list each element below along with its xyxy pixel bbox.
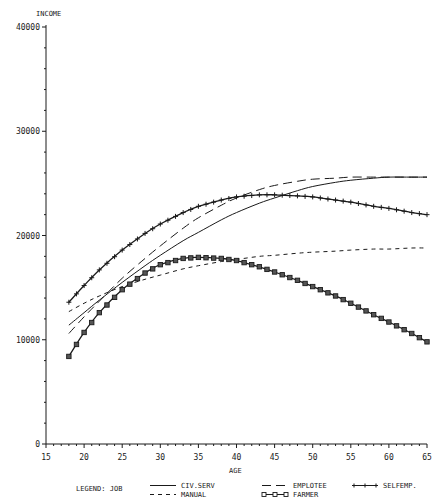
x-tick-label: 15 — [41, 453, 51, 462]
square-marker-icon — [318, 288, 322, 292]
square-marker-icon — [341, 297, 345, 301]
square-marker-icon — [349, 301, 353, 305]
square-marker-icon — [326, 291, 330, 295]
plus-marker-icon — [318, 195, 323, 200]
square-marker-icon — [234, 258, 238, 262]
legend-label: MANUAL — [181, 491, 206, 499]
legend-item: MANUAL — [150, 491, 206, 499]
plus-marker-icon — [257, 192, 262, 197]
y-tick-label: 40000 — [16, 23, 40, 32]
plus-marker-icon — [188, 207, 193, 212]
square-marker-icon — [82, 330, 86, 334]
x-tick-label: 50 — [308, 453, 318, 462]
series-line — [69, 257, 427, 356]
series-line — [69, 248, 427, 312]
plus-marker-icon — [364, 202, 369, 207]
square-marker-icon — [356, 305, 360, 309]
plus-marker-icon — [379, 205, 384, 210]
plus-marker-icon — [211, 200, 216, 205]
x-axis-title: AGE — [229, 467, 242, 475]
plus-marker-icon — [264, 192, 269, 197]
square-marker-icon — [284, 493, 288, 497]
series-emplotee — [69, 177, 427, 333]
plus-marker-icon — [409, 210, 414, 215]
legend-label: CIV.SERV — [181, 482, 216, 490]
square-marker-icon — [410, 331, 414, 335]
square-marker-icon — [158, 262, 162, 266]
plus-marker-icon — [158, 222, 163, 227]
square-marker-icon — [303, 281, 307, 285]
square-marker-icon — [364, 309, 368, 313]
square-marker-icon — [387, 320, 391, 324]
plus-marker-icon — [341, 199, 346, 204]
square-marker-icon — [273, 493, 277, 497]
square-marker-icon — [135, 276, 139, 280]
plus-marker-icon — [249, 193, 254, 198]
square-marker-icon — [97, 310, 101, 314]
square-marker-icon — [74, 342, 78, 346]
x-tick-label: 25 — [117, 453, 127, 462]
legend-item: SELFEMP. — [352, 482, 417, 490]
square-marker-icon — [219, 256, 223, 260]
plus-marker-icon — [303, 194, 308, 199]
plus-marker-icon — [374, 484, 378, 488]
square-marker-icon — [262, 493, 266, 497]
square-marker-icon — [143, 271, 147, 275]
plus-marker-icon — [272, 192, 277, 197]
square-marker-icon — [204, 256, 208, 260]
square-marker-icon — [371, 313, 375, 317]
x-tick-label: 55 — [346, 453, 356, 462]
square-marker-icon — [417, 335, 421, 339]
series-farmer — [67, 255, 430, 358]
line-chart: 0100002000030000400001520253035404550556… — [0, 0, 434, 503]
square-marker-icon — [112, 295, 116, 299]
series-manual — [69, 248, 427, 312]
legend-label: FARMER — [293, 491, 319, 499]
plus-marker-icon — [181, 210, 186, 215]
square-marker-icon — [90, 320, 94, 324]
plus-marker-icon — [196, 204, 201, 209]
square-marker-icon — [333, 294, 337, 298]
square-marker-icon — [105, 303, 109, 307]
plus-marker-icon — [333, 198, 338, 203]
square-marker-icon — [128, 282, 132, 286]
x-tick-label: 65 — [422, 453, 432, 462]
square-marker-icon — [211, 256, 215, 260]
series-group — [66, 177, 429, 359]
plus-marker-icon — [348, 200, 353, 205]
y-axis-title: INCOME — [36, 10, 61, 18]
legend-label: SELFEMP. — [383, 482, 417, 490]
legend: LEGEND: JOB CIV.SERVEMPLOTEESELFEMP.MANU… — [76, 482, 417, 499]
plus-marker-icon — [310, 194, 315, 199]
square-marker-icon — [227, 257, 231, 261]
legend-label: EMPLOTEE — [293, 482, 327, 490]
legend-item: CIV.SERV — [150, 482, 216, 490]
series-line — [69, 177, 427, 333]
square-marker-icon — [394, 324, 398, 328]
square-marker-icon — [120, 288, 124, 292]
plus-marker-icon — [363, 484, 367, 488]
square-marker-icon — [265, 267, 269, 271]
square-marker-icon — [166, 260, 170, 264]
x-tick-label: 30 — [155, 453, 165, 462]
y-tick-label: 0 — [35, 440, 40, 449]
plus-marker-icon — [204, 202, 209, 207]
axes: 0100002000030000400001520253035404550556… — [16, 23, 432, 462]
plus-marker-icon — [325, 197, 330, 202]
plus-marker-icon — [394, 207, 399, 212]
square-marker-icon — [150, 267, 154, 271]
square-marker-icon — [189, 256, 193, 260]
square-marker-icon — [257, 265, 261, 269]
y-tick-label: 20000 — [16, 232, 40, 241]
square-marker-icon — [250, 262, 254, 266]
x-tick-label: 35 — [194, 453, 204, 462]
plus-marker-icon — [425, 212, 430, 217]
square-marker-icon — [196, 255, 200, 259]
x-tick-label: 40 — [232, 453, 242, 462]
plus-marker-icon — [386, 206, 391, 211]
plus-marker-icon — [371, 204, 376, 209]
x-tick-label: 20 — [79, 453, 89, 462]
plus-marker-icon — [352, 484, 356, 488]
square-marker-icon — [288, 275, 292, 279]
legend-item: EMPLOTEE — [262, 482, 327, 490]
